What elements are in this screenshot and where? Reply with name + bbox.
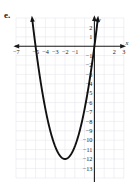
plot-background (16, 18, 124, 178)
y-tick-label: −9 (86, 127, 93, 134)
y-tick-label: −1 (86, 52, 93, 59)
x-tick-label: −7 (13, 48, 20, 55)
x-tick-label: −3 (52, 48, 59, 55)
x-axis-name: x (125, 39, 129, 46)
x-tick-label: −1 (72, 48, 79, 55)
parabola-graph: x y −7 −5 −4 −3 −2 −1 2 3 2 1 −1 −2 −3 −… (0, 0, 140, 185)
x-tick-label: −4 (42, 48, 49, 55)
y-tick-label: 2 (89, 24, 92, 31)
y-tick-label: −10 (83, 136, 93, 143)
y-tick-label: −11 (83, 146, 92, 153)
y-tick-label: 1 (89, 33, 92, 40)
y-tick-label: −13 (83, 165, 93, 172)
x-tick-label: −2 (62, 48, 69, 55)
y-tick-label: −12 (83, 155, 93, 162)
y-tick-label: −7 (86, 108, 93, 115)
x-tick-label: 2 (113, 48, 116, 55)
x-tick-label: 3 (122, 48, 125, 55)
y-tick-label: −8 (86, 118, 93, 125)
